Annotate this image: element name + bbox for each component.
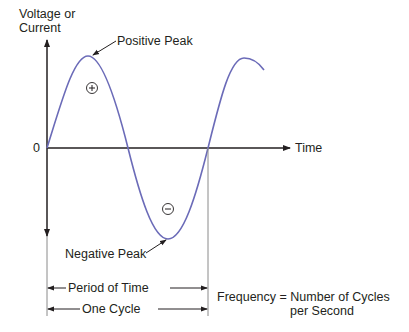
positive-peak-label: Positive Peak bbox=[117, 34, 193, 48]
x-axis-label: Time bbox=[295, 141, 322, 155]
sine-wave-diagram bbox=[0, 0, 409, 332]
positive-peak-pointer bbox=[93, 41, 116, 55]
cycle-label: One Cycle bbox=[82, 302, 140, 316]
frequency-label: Frequency = Number of Cycles per Second bbox=[217, 290, 390, 318]
negative-peak-pointer bbox=[146, 240, 166, 253]
period-label: Period of Time bbox=[68, 281, 149, 295]
negative-peak-label: Negative Peak bbox=[65, 247, 146, 261]
origin-label: 0 bbox=[33, 141, 40, 155]
y-axis-label: Voltage or Current bbox=[19, 7, 75, 35]
